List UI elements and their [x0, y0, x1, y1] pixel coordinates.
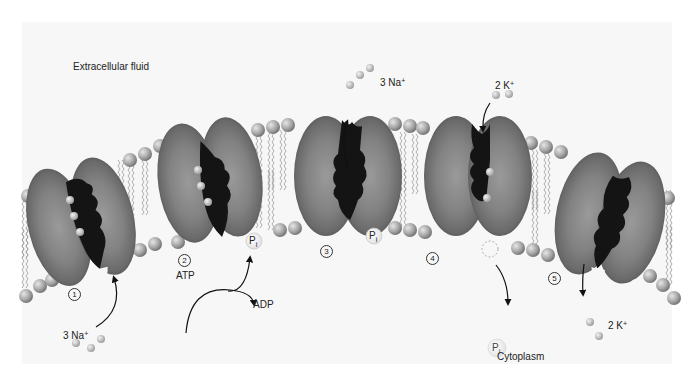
- released-phosphate-site: [482, 241, 498, 257]
- pump-step-1: [15, 151, 147, 293]
- free-k-ions-cytoplasm: [586, 318, 603, 340]
- step-5-number: 5: [548, 272, 561, 285]
- k-ions-label-cytoplasm: 2 K+: [608, 320, 627, 331]
- na-ions-label-extracellular: 3 Na+: [380, 77, 405, 88]
- phosphate-label-pump2: Pi: [249, 236, 257, 248]
- step-3-number: 3: [320, 245, 333, 258]
- na-ions-label-cytoplasm: 3 Na+: [63, 330, 88, 341]
- free-k-ions-extracellular: [492, 90, 513, 99]
- pump-step-3: [294, 116, 402, 236]
- free-na-ions-extracellular: [346, 64, 374, 89]
- phosphate-label-released: Pi: [492, 343, 500, 355]
- arrow-na-entry: [96, 278, 117, 327]
- k-ions-label-extracellular: 2 K+: [495, 80, 514, 91]
- extracellular-fluid-label: Extracellular fluid: [73, 62, 149, 72]
- pump-step-5: [544, 146, 676, 292]
- phosphate-label-pump3: Pi: [369, 231, 377, 243]
- sodium-potassium-pump-diagram: Extracellular fluid Cytoplasm 1 2 3 4 5 …: [0, 0, 692, 385]
- step-4-number: 4: [426, 252, 439, 265]
- phosphate-groups: [246, 228, 506, 357]
- arrow-pi-release: [496, 265, 508, 303]
- adp-label: ADP: [253, 300, 274, 310]
- step-2-number: 2: [178, 254, 191, 267]
- pump5-notch: [630, 279, 642, 291]
- pump-step-4: [424, 116, 532, 236]
- membrane-illustration: [0, 0, 692, 385]
- step-1-number: 1: [68, 288, 81, 301]
- atp-label: ATP: [176, 271, 195, 281]
- cytoplasm-label: Cytoplasm: [497, 352, 544, 362]
- arrow-atp-to-adp: [186, 290, 254, 333]
- arrow-atp-phosphorylation: [228, 258, 250, 291]
